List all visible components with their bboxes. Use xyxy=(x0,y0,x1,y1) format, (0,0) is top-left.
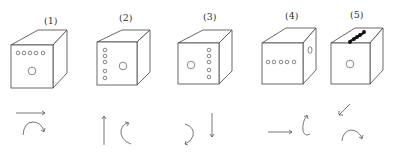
arrow-down-left-icon xyxy=(339,104,350,115)
arrow-right-icon xyxy=(16,111,45,115)
arrow-up-icon xyxy=(102,116,106,145)
large-hole-icon xyxy=(308,47,312,54)
small-hole-icon xyxy=(28,51,32,55)
small-hole-icon xyxy=(103,54,107,58)
cube-3 xyxy=(178,30,232,84)
cube-1 xyxy=(11,30,67,88)
small-hole-icon xyxy=(207,68,211,72)
small-hole-icon xyxy=(207,75,211,79)
small-hole-icon xyxy=(103,69,107,73)
small-hole-icon xyxy=(266,60,270,64)
arrow-right-icon xyxy=(268,130,292,134)
cube-puzzle-diagram: (1) (2) (3) (4) (5) xyxy=(0,0,398,155)
cube-label-4: (4) xyxy=(285,10,298,21)
small-hole-icon xyxy=(103,76,107,80)
cube-label-3: (3) xyxy=(203,11,216,22)
small-hole-icon xyxy=(34,51,38,55)
small-hole-icon xyxy=(279,60,283,64)
large-hole-icon xyxy=(119,62,127,70)
small-hole-icon xyxy=(292,60,296,64)
small-hole-icon xyxy=(207,48,211,52)
cube-label-5: (5) xyxy=(350,9,363,20)
arrow-down-icon xyxy=(210,113,214,137)
cube-4 xyxy=(262,28,316,84)
rotate-counterclockwise-icon xyxy=(121,122,131,144)
cube-2 xyxy=(97,30,150,85)
large-hole-icon xyxy=(346,60,354,68)
large-hole-icon xyxy=(187,61,195,69)
rotate-clockwise-down-icon xyxy=(185,124,193,145)
cube-label-2: (2) xyxy=(119,12,132,23)
small-hole-icon xyxy=(285,60,289,64)
small-hole-icon xyxy=(41,51,45,55)
small-hole-icon xyxy=(22,51,26,55)
cube-5 xyxy=(331,28,383,84)
small-hole-icon xyxy=(207,60,211,64)
rotate-clockwise-icon xyxy=(342,130,363,141)
small-hole-icon xyxy=(207,54,211,58)
cube-label-1: (1) xyxy=(44,15,57,26)
cube-3-front-face xyxy=(178,43,219,84)
small-hole-icon xyxy=(272,60,276,64)
small-hole-icon xyxy=(103,48,107,52)
small-hole-icon xyxy=(16,51,20,55)
small-hole-icon xyxy=(103,60,107,64)
large-hole-icon xyxy=(28,67,36,75)
rotate-vertical-loop-icon xyxy=(303,115,310,135)
rotate-clockwise-icon xyxy=(23,122,45,135)
